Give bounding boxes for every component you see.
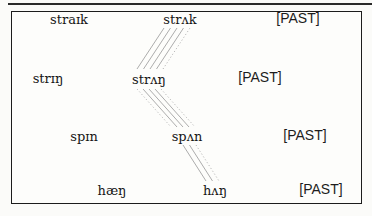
word-past-hung: hʌŋ — [203, 183, 227, 198]
word-present-string: strɪŋ — [33, 71, 64, 86]
line-bundle-struck-strung — [137, 28, 190, 69]
line-bundle-strung-spun — [137, 89, 195, 127]
word-present-hang: hæŋ — [98, 183, 127, 198]
feature-past-label-1: [PAST] — [276, 10, 319, 26]
word-past-spun: spʌn — [172, 129, 203, 144]
line-bundle-spun-hung — [183, 145, 219, 181]
word-past-strung: strʌŋ — [132, 72, 166, 87]
feature-past-label-4: [PAST] — [299, 181, 342, 197]
word-present-strike: straɪk — [50, 12, 88, 27]
feature-past-label-2: [PAST] — [238, 69, 281, 85]
word-past-struck: strʌk — [163, 12, 196, 27]
word-present-spin: spɪn — [70, 129, 98, 144]
figure-page: straɪk strʌk [PAST] strɪŋ strʌŋ [PAST] s… — [0, 0, 372, 216]
feature-past-label-3: [PAST] — [283, 127, 326, 143]
